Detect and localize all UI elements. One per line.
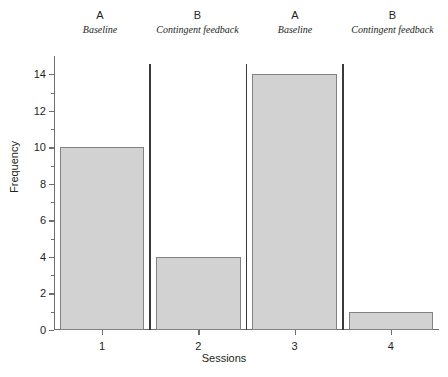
phase-divider (149, 64, 151, 330)
plot-area: 024681012141234 (54, 56, 439, 330)
phase-header-4: B Contingent feedback (341, 10, 444, 35)
y-tick-major (49, 330, 54, 331)
y-tick-minor (51, 166, 54, 167)
x-tick-label: 3 (292, 340, 298, 352)
y-tick-label: 2 (40, 287, 46, 299)
y-axis-title: Frequency (8, 141, 20, 193)
phase-name: Contingent feedback (341, 25, 444, 35)
bar-chart-figure: A Baseline B Contingent feedback A Basel… (0, 0, 448, 377)
x-tick (295, 330, 296, 335)
x-tick-label: 2 (195, 340, 201, 352)
x-axis-title: Sessions (0, 352, 448, 364)
phase-letter: A (54, 10, 146, 21)
y-tick-minor (51, 312, 54, 313)
bar (156, 257, 241, 330)
phase-letter: B (146, 10, 249, 21)
y-tick-label: 14 (34, 68, 46, 80)
y-axis-line (54, 56, 55, 330)
bar (349, 312, 434, 330)
y-tick-major (49, 293, 54, 294)
y-tick-label: 12 (34, 105, 46, 117)
phase-header-2: B Contingent feedback (146, 10, 249, 35)
y-tick-label: 8 (40, 178, 46, 190)
phase-letter: B (341, 10, 444, 21)
y-tick-label: 10 (34, 141, 46, 153)
phase-name: Contingent feedback (146, 25, 249, 35)
phase-divider (246, 64, 248, 330)
y-tick-major (49, 257, 54, 258)
bar (252, 74, 337, 330)
y-tick-major (49, 220, 54, 221)
x-tick-label: 4 (388, 340, 394, 352)
y-tick-minor (51, 275, 54, 276)
x-tick-label: 1 (99, 340, 105, 352)
bar (60, 147, 145, 330)
y-tick-minor (51, 129, 54, 130)
y-tick-minor (51, 93, 54, 94)
y-tick-major (49, 184, 54, 185)
phase-letter: A (249, 10, 341, 21)
y-tick-major (49, 111, 54, 112)
phase-name: Baseline (54, 25, 146, 35)
y-tick-major (49, 74, 54, 75)
x-tick (391, 330, 392, 335)
y-tick-label: 4 (40, 251, 46, 263)
phase-name: Baseline (249, 25, 341, 35)
phase-header-1: A Baseline (54, 10, 146, 35)
phase-divider (342, 64, 344, 330)
x-tick (102, 330, 103, 335)
x-tick (198, 330, 199, 335)
y-tick-minor (51, 239, 54, 240)
y-tick-label: 0 (40, 324, 46, 336)
y-tick-minor (51, 202, 54, 203)
y-tick-major (49, 147, 54, 148)
phase-header-3: A Baseline (249, 10, 341, 35)
y-tick-label: 6 (40, 214, 46, 226)
